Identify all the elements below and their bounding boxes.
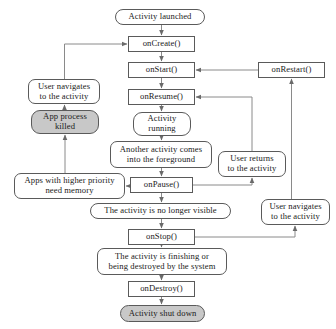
node-user-navigates-right: User navigates to the activity (261, 199, 330, 225)
node-no-longer-visible: The activity is no longer visible (90, 203, 231, 219)
activity-lifecycle-diagram: Activity launched onCreate() onStart() o… (0, 0, 336, 329)
node-on-start: onStart() (128, 62, 195, 78)
node-on-resume: onResume() (128, 89, 195, 105)
node-on-destroy: onDestroy() (128, 281, 195, 297)
node-activity-launched: Activity launched (115, 9, 205, 25)
node-activity-running: Activity running (133, 112, 191, 136)
node-on-create: onCreate() (128, 36, 195, 52)
node-on-stop: onStop() (128, 229, 195, 245)
node-user-returns: User returns to the activity (218, 151, 286, 177)
node-activity-shut-down: Activity shut down (120, 305, 205, 322)
edge-stop-to-navigates (195, 226, 295, 237)
node-user-navigates-left: User navigates to the activity (28, 79, 100, 104)
node-apps-higher-priority: Apps with higher priority need memory (14, 173, 125, 199)
node-another-activity-foreground: Another activity comes into the foregrou… (110, 141, 212, 168)
edge-navigates-to-create (65, 44, 128, 79)
node-on-pause: onPause() (130, 177, 193, 193)
node-finishing-or-destroyed: The activity is finishing or being destr… (97, 248, 227, 275)
edge-pause-to-returns (193, 178, 252, 185)
node-app-process-killed: App process killed (31, 110, 99, 134)
node-on-restart: onRestart() (258, 62, 325, 78)
